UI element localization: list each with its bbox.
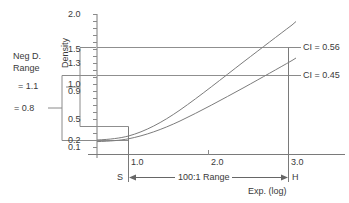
neg-density-label-line1: Neg D.: [13, 51, 41, 61]
x-axis-title: Exp. (log): [248, 186, 287, 196]
y-tick-label-2-0: 2.0: [68, 9, 81, 19]
neg-density-range-bracket: [80, 48, 96, 127]
y-tick-label-0-9: 0.9: [68, 86, 81, 96]
x-tick-label-1-0: 1.0: [131, 157, 144, 167]
neg-density-label-line2: Range: [13, 63, 40, 73]
density-exposure-chart: Density 2.0 1.5 1.3 1.0 0.9 0.5 0.2 0.1 …: [0, 0, 349, 203]
range-arrow-right-head: [281, 175, 288, 181]
second-range-value: = 0.8: [14, 103, 34, 113]
y-tick-label-0-1: 0.1: [68, 142, 81, 152]
y-tick-label-1-3: 1.3: [68, 58, 81, 68]
y-tick-label-1-5: 1.5: [68, 44, 81, 54]
ci-high-annotation: CI = 0.56: [303, 42, 340, 52]
y-axis-ticks: [93, 15, 97, 148]
range-span-label: 100:1 Range: [178, 172, 230, 182]
range-arrow-left-head: [129, 175, 136, 181]
y-tick-label-0-5: 0.5: [68, 114, 81, 124]
ci-low-annotation: CI = 0.45: [303, 70, 340, 80]
x-tick-label-3-0: 3.0: [291, 157, 304, 167]
x-tick-label-2-0: 2.0: [211, 157, 224, 167]
curve-ci-045: [97, 58, 296, 142]
highlight-marker-label: H: [292, 172, 299, 182]
curve-ci-056: [97, 22, 296, 141]
shadow-marker-label: S: [117, 172, 123, 182]
neg-density-range-value: = 1.1: [18, 81, 38, 91]
